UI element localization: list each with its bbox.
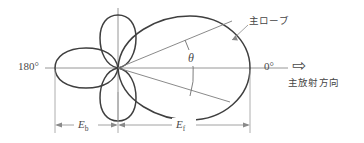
dimension-arrowhead-back-left	[55, 122, 62, 127]
dimension-label-front: Ef	[176, 119, 185, 133]
beamwidth-angle-label: θ	[188, 52, 194, 64]
angle-label-180: 180°	[18, 61, 39, 72]
dimension-label-back-subscript: b	[85, 124, 89, 133]
main-radiation-direction-label: 主放射方向	[288, 78, 339, 88]
main-radiation-direction-arrow-icon: ⇨	[292, 57, 306, 74]
main-lobe-label: 主ローブ	[249, 16, 289, 26]
figure-canvas: 180° 0° θ 主ローブ ⇨ 主放射方向 Eb Ef	[0, 0, 364, 143]
dimension-arrowhead-front-left	[118, 122, 125, 127]
dimension-arrowhead-front-right	[243, 122, 250, 127]
dimension-label-front-subscript: f	[183, 124, 186, 133]
dimension-label-back-symbol: E	[78, 118, 85, 130]
dimension-label-front-symbol: E	[176, 118, 183, 130]
angle-label-0: 0°	[264, 61, 274, 72]
dimension-arrowhead-back-right	[111, 122, 118, 127]
dimension-label-back: Eb	[78, 119, 88, 133]
